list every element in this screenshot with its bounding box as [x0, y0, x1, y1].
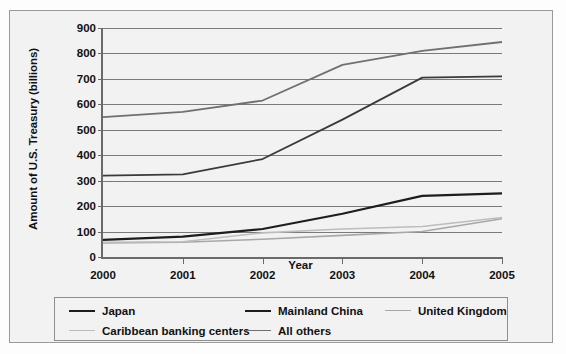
x-tick-mark: [502, 257, 503, 264]
y-axis-title: Amount of U.S. Treasury (billions): [27, 24, 39, 254]
legend-swatch: [69, 310, 95, 312]
legend-label: Mainland China: [278, 305, 363, 317]
legend-item[interactable]: All others: [245, 322, 331, 339]
legend-label: All others: [278, 325, 331, 337]
series-line: [103, 193, 502, 240]
y-tick-mark: [98, 257, 103, 258]
legend-item[interactable]: Japan: [69, 302, 135, 319]
series-line: [103, 42, 502, 117]
legend-label: United Kingdom: [418, 305, 507, 317]
chart-figure: Amount of U.S. Treasury (billions) 01002…: [9, 10, 553, 343]
series-line: [103, 76, 502, 175]
legend-swatch: [245, 330, 271, 331]
legend-item[interactable]: United Kingdom: [385, 302, 507, 319]
x-axis-title: Year: [101, 259, 500, 271]
legend-item[interactable]: Caribbean banking centers: [69, 322, 250, 339]
legend-swatch: [385, 310, 411, 311]
legend-label: Caribbean banking centers: [102, 325, 250, 337]
legend-swatch: [245, 310, 271, 312]
chart-legend: JapanMainland ChinaUnited KingdomCaribbe…: [54, 297, 508, 341]
legend-item[interactable]: Mainland China: [245, 302, 363, 319]
chart-plot-region: Amount of U.S. Treasury (billions) 01002…: [10, 11, 552, 286]
legend-label: Japan: [102, 305, 135, 317]
data-series-layer: [103, 28, 502, 257]
legend-swatch: [69, 330, 95, 331]
plot-area: 0100200300400500600700800900 20002001200…: [101, 28, 502, 259]
